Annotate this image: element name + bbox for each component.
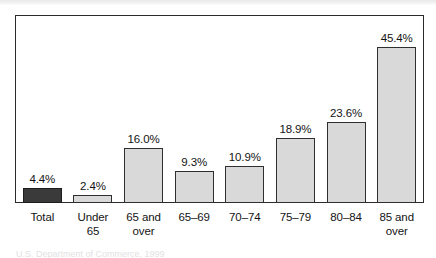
bar-value-label: 4.4% <box>29 173 55 185</box>
bar-value-label: 9.3% <box>181 156 207 168</box>
bar[interactable] <box>23 188 62 203</box>
x-axis-category-label: 85 and over <box>371 211 422 238</box>
plot-area: 4.4%2.4%16.0%9.3%10.9%18.9%23.6%45.4% <box>17 17 422 203</box>
bar-group: 23.6% <box>327 17 366 203</box>
bar-group: 2.4% <box>73 17 112 203</box>
bar-group: 16.0% <box>124 17 163 203</box>
x-axis-category-label: 65–69 <box>169 211 220 225</box>
x-axis-category-label: Total <box>17 211 68 225</box>
bar-group: 18.9% <box>276 17 315 203</box>
bar[interactable] <box>73 195 112 203</box>
bar[interactable] <box>377 47 416 203</box>
x-axis-category-label: 65 and over <box>118 211 169 238</box>
bar-value-label: 18.9% <box>279 123 311 135</box>
x-axis-category-label: 70–74 <box>220 211 271 225</box>
bar[interactable] <box>225 166 264 203</box>
source-note: U.S. Department of Commerce, 1999 <box>16 249 165 258</box>
bar-value-label: 10.9% <box>229 151 261 163</box>
bar[interactable] <box>327 122 366 203</box>
x-axis-category-label: 75–79 <box>270 211 321 225</box>
x-axis-category-label: 80–84 <box>321 211 372 225</box>
bar-value-label: 2.4% <box>80 180 106 192</box>
bar-group: 10.9% <box>225 17 264 203</box>
bar-value-label: 23.6% <box>330 107 362 119</box>
bar[interactable] <box>175 171 214 203</box>
bar-group: 9.3% <box>175 17 214 203</box>
bar-group: 4.4% <box>23 17 62 203</box>
bar-group: 45.4% <box>377 17 416 203</box>
bar-value-label: 45.4% <box>381 32 413 44</box>
bar[interactable] <box>276 138 315 203</box>
bar[interactable] <box>124 148 163 203</box>
bar-value-label: 16.0% <box>128 133 160 145</box>
x-axis-category-label: Under 65 <box>68 211 119 238</box>
